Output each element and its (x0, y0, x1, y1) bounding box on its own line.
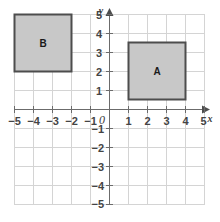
y-tick-label-2: 2 (96, 66, 102, 78)
y-tick-label--2: −2 (91, 142, 104, 154)
x-tick-label--2: −2 (65, 115, 78, 127)
y-tick-label-3: 3 (96, 47, 102, 59)
x-tick-label-4: 4 (182, 115, 189, 127)
coordinate-grid-svg: −5 −4 −3 −2 −1 1 2 3 4 5 5 4 3 2 1 −1 −2… (0, 0, 220, 222)
x-tick-label--5: −5 (8, 115, 21, 127)
square-a-label: A (153, 66, 160, 77)
x-tick-label-1: 1 (125, 115, 131, 127)
y-tick-label--5: −5 (91, 198, 104, 210)
x-tick-label-2: 2 (144, 115, 150, 127)
y-tick-label--3: −3 (91, 161, 104, 173)
y-tick-label-4: 4 (96, 28, 103, 40)
origin-label: 0 (99, 113, 105, 127)
y-tick-label-1: 1 (96, 85, 102, 97)
x-tick-label--3: −3 (46, 115, 59, 127)
x-tick-label-5: 5 (200, 115, 206, 127)
y-tick-label--4: −4 (91, 180, 104, 192)
x-tick-label--4: −4 (27, 115, 40, 127)
x-axis-label: x (207, 113, 213, 124)
y-axis-label: y (98, 5, 104, 16)
square-b-label: B (39, 38, 46, 49)
coordinate-plane-figure: −5 −4 −3 −2 −1 1 2 3 4 5 5 4 3 2 1 −1 −2… (0, 0, 220, 222)
x-tick-label-3: 3 (163, 115, 169, 127)
